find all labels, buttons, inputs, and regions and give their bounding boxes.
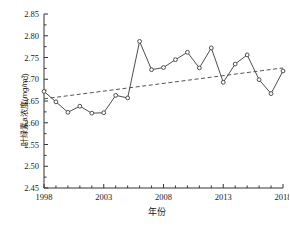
data-point-2001: [78, 104, 82, 108]
data-point-2016: [257, 78, 261, 82]
data-point-1998: [42, 90, 46, 94]
data-point-2015: [245, 53, 249, 57]
data-point-2017: [269, 92, 273, 96]
data-point-2009: [174, 58, 178, 62]
x-tick-label-1998: 1998: [36, 192, 53, 202]
y-tick-label-2.85: 2.85: [24, 9, 39, 19]
chlorophyll-trend-chart: 2.452.502.552.602.652.702.752.802.851998…: [0, 0, 289, 226]
x-tick-label-2003: 2003: [95, 192, 112, 202]
data-point-2012: [209, 46, 213, 50]
data-point-2007: [150, 68, 154, 72]
data-point-2013: [221, 80, 225, 84]
data-point-2000: [66, 110, 70, 114]
x-axis-title: 年份: [0, 205, 289, 218]
axis-spines: [44, 14, 283, 188]
data-point-2002: [90, 111, 94, 115]
data-point-2005: [126, 96, 130, 100]
x-tick-label-2013: 2013: [215, 192, 232, 202]
data-point-2014: [233, 62, 237, 66]
data-point-2006: [138, 40, 142, 44]
data-line: [44, 41, 283, 113]
chart-canvas: 2.452.502.552.602.652.702.752.802.851998…: [0, 0, 289, 226]
data-point-2010: [186, 50, 190, 54]
x-axis-title-text: 年份: [148, 207, 166, 217]
y-axis-title: 叶绿素a浓度(mg/m³): [18, 35, 29, 185]
data-point-2003: [102, 111, 106, 115]
data-point-2011: [197, 66, 201, 70]
x-tick-label-2008: 2008: [155, 192, 172, 202]
x-tick-label-2018: 2018: [275, 192, 290, 202]
data-point-2008: [162, 66, 166, 70]
trend-line: [44, 68, 283, 99]
data-point-1999: [54, 100, 58, 104]
data-point-2004: [114, 93, 118, 97]
data-point-2018: [281, 69, 285, 73]
